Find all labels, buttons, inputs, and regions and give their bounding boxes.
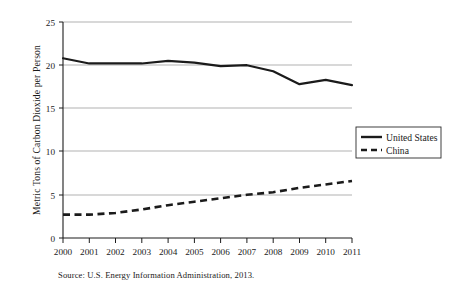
legend-label-china: China (386, 145, 410, 156)
y-tick-label-5: 5 (50, 191, 55, 201)
line-chart: Metric Tons of Carbon Dioxide per Person… (0, 0, 463, 297)
x-tick-label-8: 2008 (264, 247, 283, 257)
y-axis-label: Metric Tons of Carbon Dioxide per Person (31, 45, 42, 215)
legend-label-united-states: United States (386, 132, 438, 143)
x-tick-label-0: 2000 (54, 247, 73, 257)
x-tick-label-4: 2004 (159, 247, 178, 257)
grid-lines (63, 22, 352, 195)
x-tick-label-11: 2011 (343, 247, 361, 257)
x-tick-label-1: 2001 (80, 247, 99, 257)
y-tick-label-25: 25 (46, 18, 56, 28)
y-tick-label-0: 0 (50, 234, 55, 244)
series-line-china (63, 181, 352, 215)
x-tick-label-6: 2006 (211, 247, 230, 257)
chart-legend[interactable]: United States China (356, 127, 441, 158)
x-tick-label-5: 2005 (185, 247, 204, 257)
y-tick-label-10: 10 (46, 147, 56, 157)
x-tick-marks (63, 238, 352, 243)
y-tick-labels: 25 20 15 10 5 0 (46, 18, 56, 244)
x-tick-label-3: 2003 (133, 247, 152, 257)
source-note: Source: U.S. Energy Information Administ… (58, 270, 254, 280)
y-tick-marks (59, 22, 63, 238)
x-tick-label-7: 2007 (238, 247, 257, 257)
chart-figure: Metric Tons of Carbon Dioxide per Person… (0, 0, 463, 297)
y-tick-label-20: 20 (46, 61, 56, 71)
y-tick-label-15: 15 (46, 104, 56, 114)
x-tick-labels: 2000 2001 2002 2003 2004 2005 2006 2007 … (54, 247, 362, 257)
x-tick-label-9: 2009 (290, 247, 309, 257)
x-tick-label-10: 2010 (317, 247, 336, 257)
series-line-united-states (63, 58, 352, 85)
x-tick-label-2: 2002 (106, 247, 125, 257)
